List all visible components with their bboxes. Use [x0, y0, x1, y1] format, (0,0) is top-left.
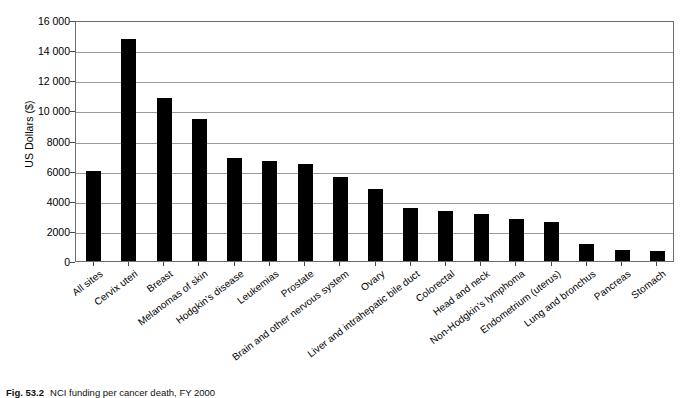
- bar: [227, 158, 242, 261]
- y-axis-tick-label: 10 000: [10, 105, 70, 117]
- y-axis-tick-label: 6000: [10, 166, 70, 178]
- figure-caption: Fig. 53.2NCI funding per cancer death, F…: [6, 387, 215, 398]
- bar: [368, 189, 383, 261]
- bar: [86, 171, 101, 261]
- bar: [262, 161, 277, 261]
- bar: [615, 250, 630, 261]
- caption-label: Fig. 53.2: [6, 387, 44, 398]
- y-axis-tick-label: 12 000: [10, 75, 70, 87]
- x-axis-tick-mark: [551, 262, 552, 266]
- figure-container: US Dollars ($) 0200040006000800010 00012…: [0, 0, 688, 398]
- x-axis-category-label: Stomach: [630, 268, 668, 301]
- x-axis-tick-mark: [445, 262, 446, 266]
- y-axis-tick-label: 2000: [10, 226, 70, 238]
- bar: [403, 208, 418, 261]
- y-axis-tick-mark: [70, 262, 75, 263]
- bar: [298, 164, 313, 261]
- x-axis-tick-mark: [198, 262, 199, 266]
- y-axis-tick-label: 14 000: [10, 45, 70, 57]
- bar: [333, 177, 348, 261]
- x-axis-tick-mark: [269, 262, 270, 266]
- x-axis-tick-mark: [339, 262, 340, 266]
- x-axis-tick-mark: [586, 262, 587, 266]
- y-axis-tick-label: 4000: [10, 196, 70, 208]
- gridline: [76, 82, 673, 83]
- bar: [509, 219, 524, 261]
- x-axis-tick-mark: [656, 262, 657, 266]
- bar: [121, 39, 136, 261]
- x-axis-tick-mark: [621, 262, 622, 266]
- y-axis-tick-label: 16 000: [10, 15, 70, 27]
- y-axis-tick-label: 8000: [10, 136, 70, 148]
- y-axis-tick-label: 0: [10, 256, 70, 268]
- bar: [474, 214, 489, 261]
- x-axis-tick-mark: [234, 262, 235, 266]
- x-axis-tick-mark: [304, 262, 305, 266]
- x-axis-tick-mark: [515, 262, 516, 266]
- x-axis-category-label: Breast: [145, 268, 175, 294]
- bar: [438, 211, 453, 261]
- x-axis-tick-mark: [410, 262, 411, 266]
- x-axis-tick-mark: [480, 262, 481, 266]
- x-axis-tick-mark: [375, 262, 376, 266]
- caption-text: NCI funding per cancer death, FY 2000: [44, 387, 215, 398]
- gridline: [76, 52, 673, 53]
- x-axis-tick-mark: [93, 262, 94, 266]
- bar: [157, 98, 172, 261]
- bar: [544, 222, 559, 261]
- x-axis-tick-mark: [128, 262, 129, 266]
- x-axis-category-label: Pancreas: [592, 268, 633, 302]
- plot-area: [75, 21, 674, 262]
- bar: [192, 119, 207, 261]
- x-axis-category-label: Ovary: [358, 268, 386, 293]
- x-axis-tick-mark: [163, 262, 164, 266]
- bar: [650, 251, 665, 261]
- bar: [579, 244, 594, 261]
